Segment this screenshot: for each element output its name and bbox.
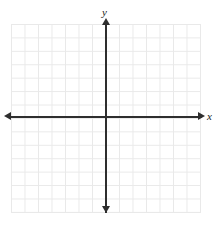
y-axis-line [105,24,107,213]
x-axis-label: x [207,111,212,122]
x-axis-arrow-left-icon [4,112,11,120]
x-axis-arrow-right-icon [198,112,205,120]
coordinate-plane-figure: y x [0,0,219,229]
y-axis-label: y [102,7,107,18]
y-axis-arrow-up-icon [102,18,110,25]
y-axis-arrow-down-icon [102,206,110,213]
